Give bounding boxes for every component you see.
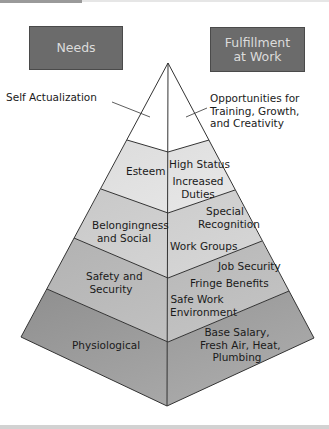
fulfillment-label-belongingness-1: Special Recognition — [198, 205, 252, 230]
fulfillment-label-safety-2: Fringe Benefits — [190, 277, 260, 290]
fulfillment-label-esteem-1: High Status — [169, 158, 225, 171]
need-label-self-actualization: Self Actualization — [6, 91, 97, 104]
fulfillment-label-safety-3: Safe Work Environment — [170, 293, 224, 318]
need-label-esteem: Esteem — [126, 165, 165, 178]
fulfillment-label-esteem-2: Increased Duties — [172, 175, 224, 200]
need-label-physiological: Physiological — [72, 339, 134, 352]
fulfillment-label-belongingness-2: Work Groups — [170, 240, 237, 253]
bottom-bar — [0, 425, 329, 429]
fulfillment-label-self-actualization: Opportunities for Training, Growth, and … — [210, 92, 299, 130]
pyramid-diagram — [0, 0, 329, 429]
need-label-belongingness: Belongingness and Social — [92, 219, 156, 244]
fulfillment-label-physiological: Base Salary, Fresh Air, Heat, Plumbing — [200, 326, 274, 364]
fulfillment-label-safety-1: Job Security — [218, 260, 272, 273]
need-label-safety: Safety and Security — [86, 270, 136, 295]
